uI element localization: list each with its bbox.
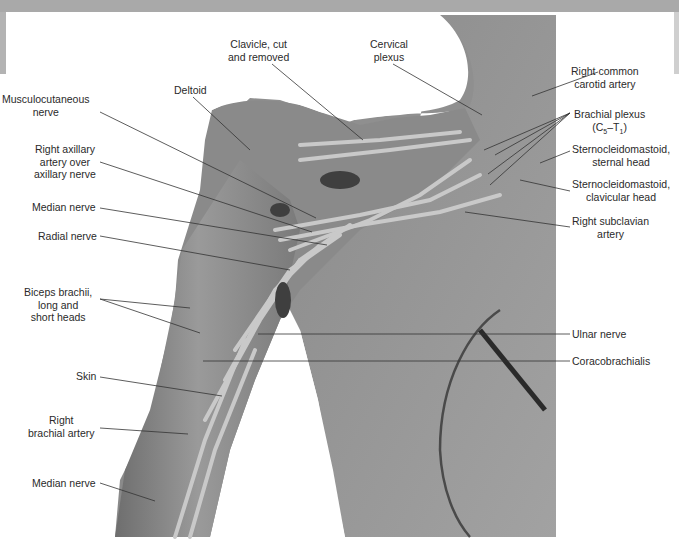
label-line: sternal head <box>572 156 670 169</box>
label-line: Sternocleidomastoid, <box>572 143 670 156</box>
label-biceps-brachii: Biceps brachii, long and short heads <box>24 286 92 324</box>
label-scm-sternal-head: Sternocleidomastoid, sternal head <box>572 143 670 168</box>
label-line: axillary nerve <box>34 168 96 181</box>
label-line: Musculocutaneous <box>2 93 90 106</box>
label-clavicle: Clavicle, cut and removed <box>228 38 289 63</box>
label-median-nerve-upper: Median nerve <box>32 201 96 214</box>
label-right-subclavian: Right subclavian artery <box>572 215 649 240</box>
label-right-common-carotid: Right common carotid artery <box>571 65 639 90</box>
label-ulnar-nerve: Ulnar nerve <box>572 328 626 341</box>
label-radial-nerve: Radial nerve <box>38 230 97 243</box>
label-line: Median nerve <box>32 477 96 490</box>
label-skin: Skin <box>76 370 96 383</box>
label-scm-clavicular-head: Sternocleidomastoid, clavicular head <box>572 178 670 203</box>
label-right-axillary-artery: Right axillary artery over axillary nerv… <box>34 143 96 181</box>
label-line: artery over <box>34 156 96 169</box>
label-line: Deltoid <box>174 84 207 97</box>
label-line: Radial nerve <box>38 230 97 243</box>
label-musculocutaneous-nerve: Musculocutaneous nerve <box>2 93 90 118</box>
label-line: carotid artery <box>571 78 639 91</box>
label-line: Biceps brachii, <box>24 286 92 299</box>
label-line: Right common <box>571 65 639 78</box>
label-line: short heads <box>24 311 92 324</box>
label-line: Skin <box>76 370 96 383</box>
label-right-brachial-artery: Right brachial artery <box>28 414 95 439</box>
label-line: Right axillary <box>34 143 96 156</box>
label-line: Coracobrachialis <box>572 355 650 368</box>
label-line: brachial artery <box>28 427 95 440</box>
label-line: long and <box>24 299 92 312</box>
label-line: and removed <box>228 51 289 64</box>
label-line: Brachial plexus <box>574 108 645 121</box>
label-line: Clavicle, cut <box>228 38 289 51</box>
label-median-nerve-lower: Median nerve <box>32 477 96 490</box>
label-brachial-plexus: Brachial plexus (C5–T1) <box>574 108 645 138</box>
label-line: Right <box>28 414 95 427</box>
label-line: Cervical <box>370 38 408 51</box>
label-coracobrachialis: Coracobrachialis <box>572 355 650 368</box>
label-line: artery <box>572 228 649 241</box>
label-line: Right subclavian <box>572 215 649 228</box>
label-line: Median nerve <box>32 201 96 214</box>
label-cervical-plexus: Cervical plexus <box>370 38 408 63</box>
label-line: nerve <box>2 106 90 119</box>
label-deltoid: Deltoid <box>174 84 207 97</box>
label-line: Sternocleidomastoid, <box>572 178 670 191</box>
label-line: Ulnar nerve <box>572 328 626 341</box>
label-line: plexus <box>370 51 408 64</box>
label-line: clavicular head <box>572 191 670 204</box>
label-line: (C5–T1) <box>574 121 645 139</box>
